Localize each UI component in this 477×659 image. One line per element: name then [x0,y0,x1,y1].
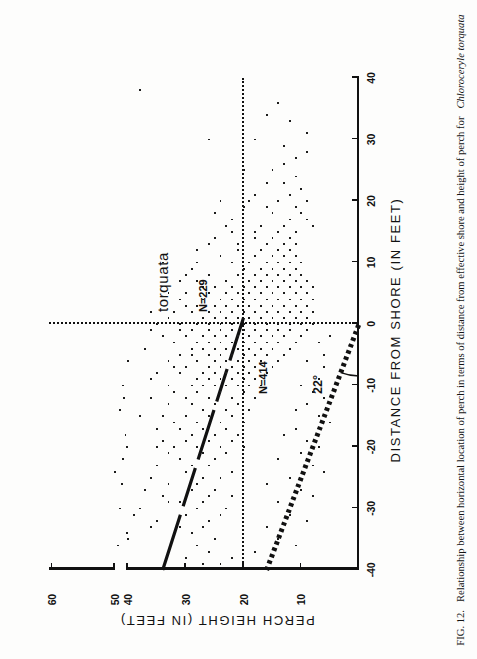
scatter-point [150,378,152,380]
scatter-point [277,273,279,275]
scatter-point [294,206,296,208]
scatter-point [202,335,204,337]
scatter-point [225,360,227,362]
scatter-point [225,224,227,226]
scatter-point [167,316,169,318]
scatter-point [150,476,152,478]
scatter-point [179,458,181,460]
scatter-point [277,501,279,503]
scatter-point [225,335,227,337]
scatter-point [196,323,198,325]
scatter-point [156,427,158,429]
scatter-point [213,286,215,288]
scatter-point [271,212,273,214]
scatter-point [294,157,296,159]
scatter-point [248,372,250,374]
scatter-point [300,187,302,189]
scatter-point [190,433,192,435]
scatter-point [283,433,285,435]
scatter-point [184,439,186,441]
scatter-point [283,353,285,355]
scatter-point [306,150,308,152]
scatter-point [208,243,210,245]
scatter-point [306,439,308,441]
scatter-point [288,273,290,275]
scatter-point [294,544,296,546]
scatter-point [202,316,204,318]
scatter-point [242,169,244,171]
scatter-point [277,230,279,232]
scatter-point [219,378,221,380]
scatter-point [248,409,250,411]
scatter-point [196,544,198,546]
scatter-point [283,255,285,257]
scatter-point [236,403,238,405]
scatter-point [265,323,267,325]
scatter-point [254,396,256,398]
scatter-point [231,396,233,398]
scatter-point [288,298,290,300]
scatter-point [271,347,273,349]
scatter-point [248,200,250,202]
scatter-point [265,329,267,331]
scatter-point [271,169,273,171]
scatter-point [311,286,313,288]
scatter-point [219,562,221,564]
scatter-point [283,316,285,318]
scatter-point [254,255,256,257]
scatter-point [208,378,210,380]
scatter-point [213,304,215,306]
scatter-point [300,273,302,275]
scatter-point [271,237,273,239]
scatter-point [123,396,125,398]
scatter-point [311,298,313,300]
scatter-point [294,267,296,269]
scatter-point [306,280,308,282]
scatter-point [306,360,308,362]
scatter-point [202,476,204,478]
scatter-point [125,532,127,534]
scatter-point [259,335,261,337]
scatter-point [248,316,250,318]
scatter-point [277,310,279,312]
scatter-point [202,372,204,374]
scatter-point [288,347,290,349]
scatter-point [196,507,198,509]
scatter-point [116,544,118,546]
scatter-point [242,323,244,325]
scatter-point [306,329,308,331]
scatter-point [236,292,238,294]
scatter-point [288,120,290,122]
x-tick-label: -10 [365,378,377,393]
x-tick-label: -20 [365,439,377,454]
scatter-point [294,341,296,343]
scatter-point [124,433,126,435]
scatter-point [271,255,273,257]
scatter-point [248,347,250,349]
scatter-point [156,519,158,521]
scatter-point [213,458,215,460]
scatter-point [202,427,204,429]
scatter-point [173,310,175,312]
scatter-point [219,446,221,448]
scatter-point [231,439,233,441]
scatter-point [190,353,192,355]
scatter-point [277,101,279,103]
scatter-point [190,403,192,405]
scatter-plot: -40-30-20-10010203040 102030405060 DISTA… [21,30,421,630]
scatter-point [190,384,192,386]
scatter-point [317,341,319,343]
scatter-point [236,347,238,349]
scatter-point [231,556,233,558]
scatter-point [288,193,290,195]
scatter-point [173,341,175,343]
scatter-point [242,341,244,343]
scatter-point [138,507,140,509]
scatter-point [300,452,302,454]
scatter-point [265,206,267,208]
scatter-point [150,310,152,312]
scatter-point [231,366,233,368]
scatter-point [120,483,122,485]
scatter-point [306,403,308,405]
scatter-point [213,489,215,491]
